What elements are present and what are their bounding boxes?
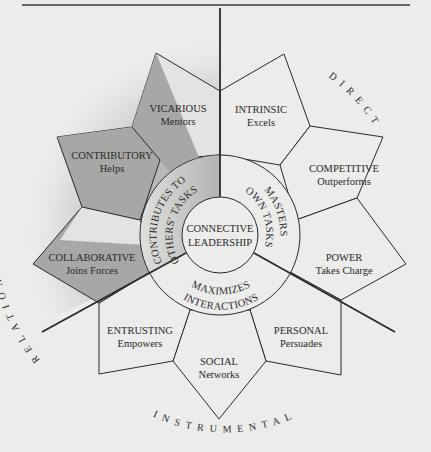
dimension-direct: DIRECT xyxy=(327,70,384,131)
label-personal: PERSONAL xyxy=(274,325,328,336)
sub-power: Takes Charge xyxy=(315,265,372,276)
sub-collaborative: Joins Forces xyxy=(66,265,118,276)
label-power: POWER xyxy=(326,252,363,263)
connective-leadership-diagram: CONNECTIVE LEADERSHIP CONTRIBUTES TO OTH… xyxy=(0,0,431,452)
sub-personal: Persuades xyxy=(280,338,322,349)
sub-entrusting: Empowers xyxy=(118,338,163,349)
sub-social: Networks xyxy=(199,369,240,380)
center-label-line1: CONNECTIVE xyxy=(186,223,253,234)
center-label-line2: LEADERSHIP xyxy=(188,237,252,248)
inner-circle xyxy=(182,197,258,273)
label-social: SOCIAL xyxy=(200,356,238,367)
sub-intrinsic: Excels xyxy=(247,117,275,128)
sub-vicarious: Mentors xyxy=(161,116,196,127)
label-collaborative: COLLABORATIVE xyxy=(49,252,136,263)
sub-contributory: Helps xyxy=(100,163,125,174)
label-entrusting: ENTRUSTING xyxy=(107,325,173,336)
label-contributory: CONTRIBUTORY xyxy=(71,150,153,161)
label-competitive: COMPETITIVE xyxy=(309,163,379,174)
label-vicarious: VICARIOUS xyxy=(149,103,206,114)
label-intrinsic: INTRINSIC xyxy=(235,104,287,115)
sub-competitive: Outperforms xyxy=(317,176,371,187)
